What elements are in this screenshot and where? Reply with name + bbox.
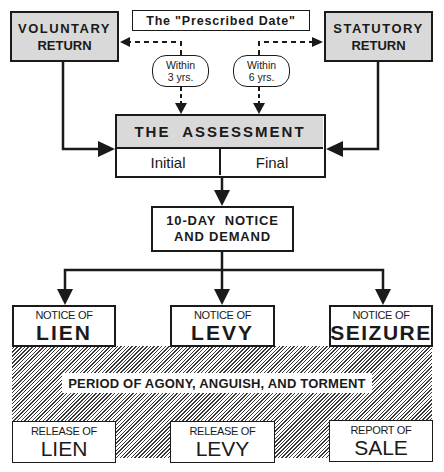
notice-of-levy-box: NOTICE OF LEVY bbox=[170, 305, 275, 347]
assessment-title-band: THE ASSESSMENT bbox=[117, 116, 323, 149]
assessment-initial-label: Initial bbox=[150, 154, 185, 171]
within-6-years-line1: Within bbox=[247, 59, 276, 71]
within-3-years-line2: 3 yrs. bbox=[168, 71, 194, 83]
assessment-title: THE ASSESSMENT bbox=[134, 123, 305, 140]
notice-of-lien-prefix: NOTICE OF bbox=[35, 309, 92, 322]
ten-day-notice-line1: 10-DAY NOTICE bbox=[166, 213, 278, 229]
ten-day-notice-line2: AND DEMAND bbox=[174, 229, 271, 245]
release-of-levy-label: LEVY bbox=[196, 438, 250, 460]
release-of-levy-prefix: RELEASE OF bbox=[189, 425, 255, 438]
assessment-final-cell: Final bbox=[221, 149, 323, 175]
notice-of-seizure-prefix: NOTICE OF bbox=[352, 309, 409, 322]
report-of-sale-label: SALE bbox=[354, 437, 408, 459]
report-of-sale-prefix: REPORT OF bbox=[350, 424, 411, 437]
voluntary-return-line2: RETURN bbox=[37, 37, 91, 54]
voluntary-return-box: VOLUNTARY RETURN bbox=[10, 11, 119, 62]
voluntary-return-line1: VOLUNTARY bbox=[18, 20, 111, 37]
statutory-return-box: STATUTORY RETURN bbox=[324, 11, 433, 62]
report-of-sale-box: REPORT OF SALE bbox=[329, 420, 433, 462]
notice-of-seizure-label: SEIZURE bbox=[330, 322, 432, 344]
voluntary-to-assessment-arrow bbox=[63, 61, 115, 157]
notice-of-lien-label: LIEN bbox=[36, 322, 92, 344]
assessment-final-label: Final bbox=[256, 154, 289, 171]
statutory-to-assessment-arrow bbox=[326, 61, 378, 157]
assessment-initial-cell: Initial bbox=[117, 149, 221, 175]
assessment-box: THE ASSESSMENT Initial Final bbox=[115, 114, 326, 178]
release-of-levy-box: RELEASE OF LEVY bbox=[170, 421, 275, 463]
notice-of-levy-prefix: NOTICE OF bbox=[194, 309, 251, 322]
statutory-return-line1: STATUTORY bbox=[333, 20, 423, 37]
notice-of-levy-label: LEVY bbox=[191, 322, 254, 344]
within-6-years-pill: Within 6 yrs. bbox=[233, 55, 290, 87]
prescribed-date-box: The "Prescribed Date" bbox=[132, 10, 310, 31]
prescribed-date-label: The "Prescribed Date" bbox=[146, 14, 296, 28]
assessment-to-notice-arrow bbox=[214, 177, 230, 206]
ten-day-notice-box: 10-DAY NOTICE AND DEMAND bbox=[151, 206, 294, 252]
notice-of-lien-box: NOTICE OF LIEN bbox=[12, 305, 116, 347]
notice-branch-arrows bbox=[57, 251, 391, 305]
within-6-years-line2: 6 yrs. bbox=[249, 71, 275, 83]
release-of-lien-label: LIEN bbox=[41, 438, 88, 460]
release-of-lien-prefix: RELEASE OF bbox=[31, 425, 97, 438]
within-3-years-line1: Within bbox=[166, 59, 195, 71]
release-of-lien-box: RELEASE OF LIEN bbox=[12, 421, 116, 463]
period-label-band: PERIOD OF AGONY, ANGUISH, AND TORMENT bbox=[62, 373, 372, 393]
period-label: PERIOD OF AGONY, ANGUISH, AND TORMENT bbox=[68, 376, 366, 391]
within-3-years-pill: Within 3 yrs. bbox=[152, 55, 209, 87]
statutory-return-line2: RETURN bbox=[351, 37, 405, 54]
notice-of-seizure-box: NOTICE OF SEIZURE bbox=[329, 305, 433, 347]
